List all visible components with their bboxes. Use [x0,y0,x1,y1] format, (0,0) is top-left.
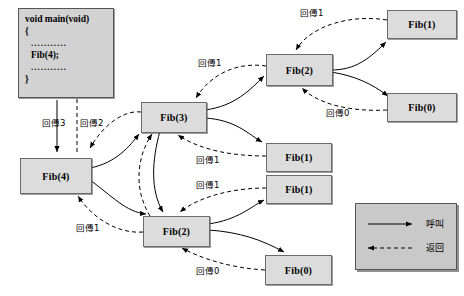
edge-fib1a-return-fib2a [296,18,387,50]
node-label: Fib(3) [160,112,187,123]
edge-fib1c-return-fib2b [180,188,266,212]
node-fib0-right[interactable]: Fib(0) [387,93,457,122]
edge-fib3-call-fib2b [154,131,163,212]
edge-label-ret2-fib3: 回傳2 [80,118,103,128]
edge-fib0b-return-fib2b [182,248,265,270]
edge-label-ret0-fib0a: 回傳0 [326,108,349,118]
code-line-5: } [25,73,107,85]
edge-fib2a-return-fib3 [196,65,266,98]
node-fib4[interactable]: Fib(4) [20,158,92,194]
edge-fib1b-return-fib3 [178,135,266,156]
legend-arrows [356,204,456,269]
code-line-0: void main(void) [25,13,107,25]
edge-fib2b-call-fib1c [208,200,264,224]
edge-label-ret1-top: 回傳1 [300,8,323,18]
edge-fib3-call-fib1b [205,118,262,142]
node-fib0-bottom[interactable]: Fib(0) [265,255,332,285]
code-line-1: { [25,25,107,37]
node-label: Fib(0) [285,265,312,276]
edge-fib2b-return-fib3 [139,134,152,216]
node-label: Fib(0) [408,102,435,113]
edge-label-ret1-fib2b: 回傳1 [76,223,99,233]
node-fib2-bottom[interactable]: Fib(2) [143,216,210,247]
edge-fib4-call-fib2b [90,180,146,214]
diagram-canvas: void main(void) { ........... Fib(4); ..… [0,0,464,296]
edge-fib2b-call-fib0b [208,230,284,252]
edge-fib2a-call-fib1a [331,42,386,70]
node-label: Fib(4) [42,171,69,182]
node-fib1-middle-upper[interactable]: Fib(1) [266,143,332,172]
node-label: Fib(1) [285,152,312,163]
edge-fib3-call-fib2a [205,76,264,110]
code-line-2: ........... [25,37,107,49]
edge-fib2a-call-fib0a [331,72,388,96]
main-code-block: void main(void) { ........... Fib(4); ..… [18,8,114,98]
edge-label-ret1-fib2a: 回傳1 [198,58,221,68]
node-fib2-top[interactable]: Fib(2) [266,54,333,86]
legend-return-label: 返回 [426,241,444,254]
edge-label-ret1-fib1c: 回傳1 [196,180,219,190]
node-label: Fib(1) [285,184,312,195]
node-fib1-topright[interactable]: Fib(1) [387,10,457,39]
code-line-4: ........... [25,61,107,73]
edge-label-ret1-fib1b: 回傳1 [196,155,219,165]
node-label: Fib(1) [408,19,435,30]
edge-fib0a-return-fib2a [302,88,387,110]
node-label: Fib(2) [286,65,313,76]
node-label: Fib(2) [163,226,190,237]
edge-fib4-call-fib3 [90,134,139,168]
node-fib1-middle-lower[interactable]: Fib(1) [266,175,332,204]
legend-call-label: 呼叫 [426,217,444,230]
edge-label-ret3-main: 回傳3 [42,118,65,128]
legend-box: 呼叫 返回 [355,203,457,270]
code-line-3: Fib(4); [25,49,107,61]
node-fib3[interactable]: Fib(3) [141,102,207,133]
edge-label-ret0-fib0b: 回傳0 [196,266,219,276]
